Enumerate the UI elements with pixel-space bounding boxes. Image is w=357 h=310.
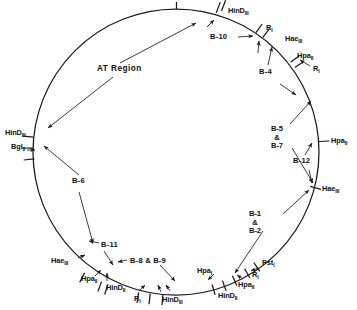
fragment-label-b7: B-7 — [271, 142, 283, 151]
site-label-hpa1-bottom: HpaI — [197, 267, 212, 274]
tick-hind3-top-b — [222, 0, 226, 11]
fragment-label-b10: B-10 — [210, 33, 227, 41]
fragment-label-b12: B-12 — [293, 157, 310, 165]
site-label-hae3-right: HaeIII — [322, 185, 339, 192]
site-label-hind2-bottomleft: HinDII — [106, 284, 125, 291]
leader-b1b2-down — [235, 231, 263, 273]
tick-hind3-bottom-b — [149, 294, 150, 305]
site-label-bgl2-left: BglII — [11, 143, 25, 150]
tick-hpa2-right — [319, 141, 330, 142]
leader-b6-up — [44, 146, 79, 175]
restriction-site-ticks — [23, 0, 330, 305]
leader-b11-down — [104, 251, 113, 265]
site-label-hind3-left: HinDIII — [5, 129, 26, 136]
fragment-label-b4: B-4 — [259, 68, 272, 76]
site-label-ri-top: RI — [266, 24, 273, 31]
site-label-hae3-left: HaeIII — [51, 257, 68, 264]
fragment-label-b11: B-11 — [101, 241, 118, 249]
annotation-at-region: AT Region — [97, 65, 142, 73]
leader-b5b7-up — [290, 101, 311, 124]
site-label-ri-topright: RI — [313, 65, 320, 72]
leader-b4 — [268, 47, 272, 65]
site-label-hae3-topright: HaeIII — [285, 35, 302, 42]
leader-b8b9-right — [160, 265, 175, 281]
site-label-hpa2-bottom: HpaII — [238, 281, 254, 288]
tick-hpa2-bottom — [232, 276, 236, 286]
tick-ri-top — [256, 24, 262, 33]
tick-hae3-right — [310, 186, 321, 189]
leader-b12-up — [305, 143, 312, 155]
tick-hind3-top — [216, 2, 220, 13]
site-label-ri-bottom: RI — [134, 295, 141, 302]
tick-hpa2-bottomleft — [98, 282, 102, 292]
pointer-ri-top-up — [258, 41, 259, 53]
fragment-label-b8-b9: B-8 & B-9 — [130, 257, 166, 265]
leader-b11-left — [89, 241, 99, 243]
leader-at-region-top — [120, 23, 196, 63]
genome-circle — [33, 9, 319, 295]
leader-b1b2-up — [283, 190, 309, 214]
site-label-hpa2-bottomleft: HpaII — [81, 275, 97, 282]
leader-at-region-left — [48, 77, 113, 128]
site-label-pst1: PstI — [262, 259, 274, 266]
circular-restriction-map-diagram: HinDIII RI HaeIII HpaII RI HpaII HaeIII … — [0, 0, 357, 310]
leader-b5b7-down — [292, 148, 313, 183]
genome-circle-group — [33, 9, 319, 295]
site-label-hpa2-topright: HpaII — [297, 52, 313, 59]
pointer-hpa2-bottomright — [237, 275, 243, 279]
fragment-label-b2: B-2 — [249, 227, 261, 236]
fragment-label-b6: B-6 — [72, 177, 85, 185]
fragment-label-b1-b2: B-1 & B-2 — [249, 210, 261, 236]
leader-lines-group — [27, 20, 313, 292]
fragment-label-b5-b7: B-5 & B-7 — [271, 125, 283, 151]
leader-b4-lower — [280, 84, 296, 95]
site-label-hind2-bottomright: HinDII — [218, 292, 237, 299]
site-label-hind3-top: HinDIII — [228, 7, 249, 14]
pointer-hind3-bottom-b — [166, 285, 170, 291]
site-label-hind3-bottom: HinDIII — [162, 296, 183, 303]
leader-b10 — [238, 36, 253, 37]
leader-b8b9-left — [118, 260, 127, 262]
leader-b6-down — [79, 192, 93, 243]
site-label-ri-bottomright: RI — [252, 271, 259, 278]
site-label-hpa2-right: HpaII — [331, 137, 347, 144]
tick-ri-topright — [295, 62, 304, 68]
pointer-hind3-top — [207, 20, 214, 27]
pointer-hind3-bottom-a — [158, 285, 161, 292]
pointer-ri-bottom — [139, 285, 145, 291]
